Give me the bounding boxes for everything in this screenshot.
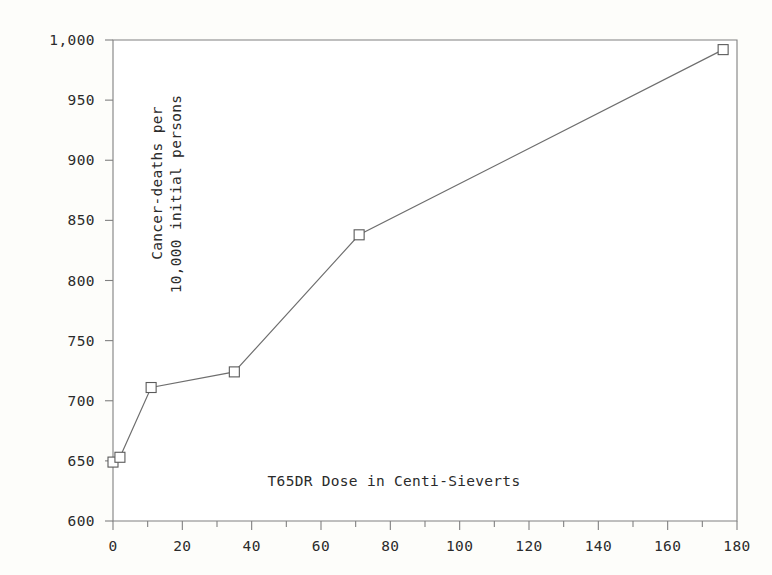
y-tick-label: 700 [68,393,95,409]
y-axis-title-line1: Cancer-deaths per [149,106,165,260]
x-axis-title: T65DR Dose in Centi-Sieverts [268,473,521,489]
data-point-marker [115,452,125,462]
y-tick-label: 1,000 [49,32,95,48]
x-tick-label: 0 [108,538,117,554]
x-tick-label: 20 [173,538,191,554]
y-tick-label: 850 [68,212,95,228]
x-tick-label: 40 [243,538,261,554]
y-axis-title-line2: 10,000 initial persons [168,95,184,294]
y-tick-label: 800 [68,273,95,289]
chart-canvas: 6006507007508008509009501,000 0204060801… [0,0,772,575]
plot-area-background [113,40,737,521]
data-point-marker [718,45,728,55]
x-tick-label: 100 [446,538,473,554]
data-point-marker [146,383,156,393]
y-tick-label: 600 [68,513,95,529]
chart-figure: 6006507007508008509009501,000 0204060801… [0,0,772,575]
y-tick-label: 750 [68,333,95,349]
y-tick-label: 900 [68,152,95,168]
y-tick-label: 650 [68,453,95,469]
x-tick-label: 120 [515,538,542,554]
x-tick-label: 180 [723,538,750,554]
x-tick-label: 140 [585,538,612,554]
y-tick-label: 950 [68,92,95,108]
x-tick-label: 60 [312,538,330,554]
x-tick-label: 160 [654,538,681,554]
x-tick-label: 80 [381,538,399,554]
data-point-marker [229,367,239,377]
data-point-marker [354,230,364,240]
